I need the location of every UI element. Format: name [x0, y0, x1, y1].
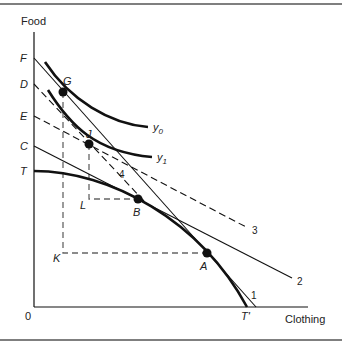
- label-K: K: [53, 252, 61, 264]
- label-F: F: [20, 52, 28, 64]
- label-y0: y0: [152, 121, 164, 136]
- label-line-1: 1: [251, 290, 257, 301]
- x-axis-label: Clothing: [285, 313, 325, 325]
- label-D: D: [20, 78, 28, 90]
- label-J: J: [85, 128, 92, 140]
- line-3: [34, 116, 248, 228]
- label-T-prime: T': [241, 310, 251, 322]
- label-line-2: 2: [297, 276, 303, 287]
- label-A: A: [199, 260, 207, 272]
- trade-diagram: Food Clothing 0 F D E C T T' G J B A L K…: [0, 0, 342, 343]
- label-line-4: 4: [119, 169, 125, 180]
- label-B: B: [133, 206, 140, 218]
- label-G: G: [63, 75, 72, 87]
- label-line-3: 3: [252, 225, 258, 236]
- label-E: E: [20, 110, 28, 122]
- y-axis-label: Food: [21, 15, 46, 27]
- label-y1: y1: [156, 151, 167, 166]
- label-L: L: [80, 199, 86, 211]
- label-C: C: [20, 140, 28, 152]
- origin-label: 0: [25, 310, 31, 322]
- label-T: T: [20, 165, 28, 177]
